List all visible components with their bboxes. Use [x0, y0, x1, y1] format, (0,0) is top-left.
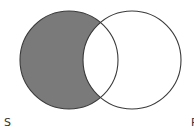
label-s: S: [4, 116, 11, 129]
label-p: P: [191, 116, 194, 129]
venn-diagram: S P: [0, 0, 194, 131]
